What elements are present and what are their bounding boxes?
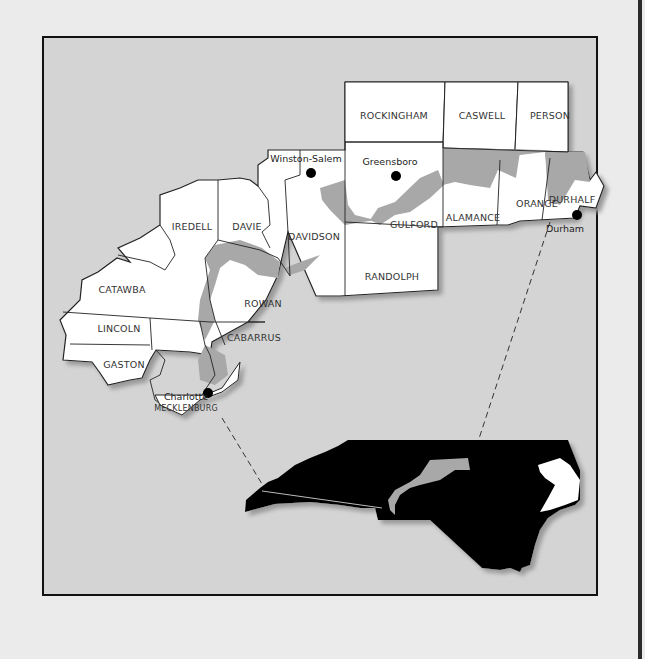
county-label-rowan: ROWAN — [244, 298, 282, 309]
city-dot-greensboro — [391, 171, 401, 181]
county-label-lincoln: LINCOLN — [97, 323, 140, 334]
city-dot-winston-salem — [306, 168, 316, 178]
county-label-iredell: IREDELL — [172, 221, 213, 232]
county-label-durhalf: DURHALF — [549, 194, 596, 205]
nc-inset-map — [245, 440, 580, 572]
county-label-gulford: GULFORD — [390, 219, 438, 230]
county-label-randolph: RANDOLPH — [365, 271, 419, 282]
county-label-cabarrus: CABARRUS — [227, 332, 281, 343]
county-label-rockingham: ROCKINGHAM — [360, 110, 428, 121]
city-label-charlotte: Charlotte — [164, 391, 208, 402]
county-label-mecklenburg: MECKLENBURG — [154, 404, 218, 413]
city-label-greensboro: Greensboro — [362, 156, 417, 167]
map-canvas: ROCKINGHAM CASWELL PERSON GULFORD ALAMAN… — [0, 0, 645, 659]
county-label-davidson: DAVIDSON — [288, 231, 340, 242]
county-label-caswell: CASWELL — [459, 110, 506, 121]
city-label-winston-salem: Winston-Salem — [270, 153, 341, 164]
county-label-person: PERSON — [530, 110, 570, 121]
county-label-alamance: ALAMANCE — [446, 212, 501, 223]
county-label-gaston: GASTON — [103, 359, 144, 370]
city-label-durham: Durham — [546, 223, 584, 234]
county-label-davie: DAVIE — [232, 221, 261, 232]
city-dot-durham — [572, 210, 582, 220]
county-label-catawba: CATAWBA — [98, 284, 146, 295]
